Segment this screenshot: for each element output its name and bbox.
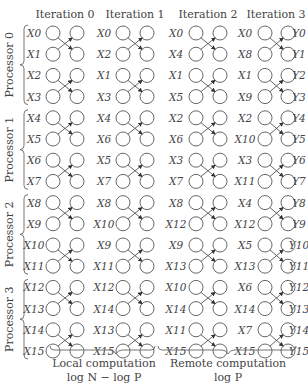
- input-label: X1: [168, 69, 183, 81]
- input-label: X1: [96, 69, 111, 81]
- input-label: X0: [237, 27, 252, 39]
- input-label: X2: [237, 112, 252, 124]
- input-label: X12: [165, 218, 187, 230]
- input-label: X5: [168, 91, 183, 103]
- input-label: X13: [93, 324, 115, 336]
- input-label: X2: [26, 69, 41, 81]
- input-label: X5: [96, 154, 111, 166]
- output-node: [70, 259, 84, 273]
- input-label: X10: [165, 281, 187, 293]
- input-node: [46, 323, 60, 337]
- local-computation-formula: log N − log P: [67, 371, 142, 384]
- input-label: X4: [26, 112, 41, 124]
- iteration-header: Iteration 2: [178, 8, 237, 21]
- input-label: X8: [168, 197, 183, 209]
- input-label: X13: [234, 260, 256, 272]
- remote-computation-title: Remote computation: [170, 357, 286, 370]
- input-label: X2: [168, 112, 183, 124]
- input-label: X9: [26, 218, 41, 230]
- output-label: Y3: [292, 91, 306, 103]
- input-node: [189, 217, 203, 231]
- input-label: X14: [93, 303, 115, 315]
- input-node: [46, 217, 60, 231]
- output-label: Y5: [292, 133, 306, 145]
- input-label: X6: [237, 281, 252, 293]
- input-label: X15: [165, 345, 187, 357]
- input-node: [46, 153, 60, 167]
- input-label: X6: [96, 133, 111, 145]
- processor-label: Processor 0: [3, 32, 16, 98]
- output-node: [213, 217, 227, 231]
- input-label: X8: [237, 48, 252, 60]
- input-label: X10: [234, 133, 256, 145]
- input-label: X15: [93, 345, 115, 357]
- input-node: [116, 259, 130, 273]
- input-label: X2: [96, 48, 111, 60]
- iteration-header: Iteration 1: [105, 8, 164, 21]
- input-node: [189, 323, 203, 337]
- input-node: [116, 323, 130, 337]
- output-label: Y10: [289, 239, 308, 251]
- input-label: X0: [96, 27, 111, 39]
- input-node: [46, 259, 60, 273]
- iteration-header: Iteration 0: [35, 8, 94, 21]
- input-label: X9: [96, 239, 111, 251]
- input-label: X5: [26, 133, 41, 145]
- input-node: [258, 323, 272, 337]
- input-label: X6: [168, 133, 183, 145]
- input-label: X3: [237, 154, 252, 166]
- input-node: [116, 217, 130, 231]
- input-label: X8: [96, 197, 111, 209]
- output-label: Y15: [289, 345, 308, 357]
- output-label: Y2: [292, 69, 306, 81]
- output-label: Y9: [292, 218, 306, 230]
- output-node: [213, 153, 227, 167]
- output-label: Y8: [292, 197, 306, 209]
- remote-computation-formula: log P: [214, 371, 243, 384]
- input-label: X4: [168, 48, 183, 60]
- output-label: Y12: [289, 281, 308, 293]
- input-label: X13: [165, 260, 187, 272]
- input-node: [189, 259, 203, 273]
- input-label: X1: [237, 69, 252, 81]
- input-label: X14: [23, 324, 45, 336]
- output-node: [213, 259, 227, 273]
- input-label: X11: [234, 175, 256, 187]
- input-label: X0: [26, 27, 41, 39]
- input-label: X12: [23, 281, 45, 293]
- input-node: [258, 217, 272, 231]
- input-label: X9: [168, 239, 183, 251]
- output-label: Y13: [289, 303, 308, 315]
- input-label: X11: [93, 260, 115, 272]
- output-label: Y7: [292, 175, 306, 187]
- output-node: [140, 259, 154, 273]
- input-label: X15: [234, 345, 256, 357]
- input-label: X11: [165, 324, 187, 336]
- input-label: X7: [96, 175, 111, 187]
- input-label: X3: [168, 154, 183, 166]
- input-label: X15: [23, 345, 45, 357]
- input-label: X9: [237, 91, 252, 103]
- input-label: X7: [168, 175, 183, 187]
- butterfly-diagram: Iteration 0Iteration 1Iteration 2Iterati…: [0, 0, 308, 389]
- output-label: Y14: [289, 324, 308, 336]
- input-label: X8: [26, 197, 41, 209]
- input-node: [258, 259, 272, 273]
- input-label: X10: [93, 218, 115, 230]
- input-label: X3: [96, 91, 111, 103]
- input-label: X14: [165, 303, 187, 315]
- output-node: [213, 323, 227, 337]
- input-node: [258, 153, 272, 167]
- output-node: [140, 153, 154, 167]
- input-label: X5: [237, 239, 252, 251]
- input-label: X3: [26, 91, 41, 103]
- output-node: [70, 153, 84, 167]
- output-label: Y1: [292, 48, 306, 60]
- input-label: X7: [237, 324, 252, 336]
- local-computation-title: Local computation: [52, 357, 156, 370]
- processor-label: Processor 1: [3, 117, 16, 183]
- input-label: X10: [23, 239, 45, 251]
- processor-label: Processor 2: [3, 202, 16, 268]
- input-label: X12: [234, 218, 256, 230]
- output-label: Y4: [292, 112, 306, 124]
